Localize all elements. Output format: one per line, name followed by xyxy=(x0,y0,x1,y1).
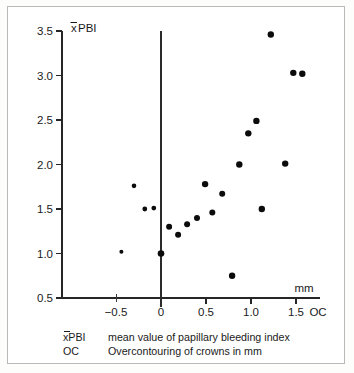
x-tick-label: 0.5 xyxy=(198,306,214,318)
y-tick-label: 1.5 xyxy=(37,203,53,215)
y-tick-label: 0.5 xyxy=(37,292,53,304)
scatter-plot: 3.5 3.0 2.5 2.0 1.5 1.0 0.5 −0.5 0 0.5 1… xyxy=(0,0,354,373)
figure-container: 3.5 3.0 2.5 2.0 1.5 1.0 0.5 −0.5 0 0.5 1… xyxy=(0,0,354,373)
legend-key-oc: OC xyxy=(63,345,109,358)
y-tick-label: 1.0 xyxy=(37,248,53,260)
y-axis-title-x: x xyxy=(71,22,77,34)
x-tick-label: −0.5 xyxy=(105,306,128,318)
x-tick-marks xyxy=(116,294,296,304)
data-point xyxy=(268,31,274,37)
legend-key-pbi-prefix: x xyxy=(63,331,68,343)
legend-key-pbi: xPBI xyxy=(63,331,109,344)
data-point xyxy=(142,207,147,212)
data-point xyxy=(299,71,305,77)
data-point xyxy=(253,118,259,124)
y-tick-labels: 3.5 3.0 2.5 2.0 1.5 1.0 0.5 xyxy=(37,25,53,304)
data-point xyxy=(245,130,251,136)
data-point xyxy=(236,161,242,167)
y-tick-label: 3.5 xyxy=(37,25,53,37)
data-point xyxy=(290,70,296,76)
x-tick-label: 0 xyxy=(158,306,164,318)
x-tick-labels: −0.5 0 0.5 1.0 1.5 xyxy=(105,306,304,318)
legend-desc-pbi: mean value of papillary bleeding index xyxy=(108,331,290,344)
data-point xyxy=(166,224,172,230)
legend-key-pbi-rest: PBI xyxy=(68,331,85,343)
y-tick-label: 2.5 xyxy=(37,114,53,126)
x-axis-title: OC xyxy=(309,306,326,318)
data-point xyxy=(194,215,200,221)
data-point xyxy=(259,206,265,212)
data-point xyxy=(158,250,165,257)
data-point xyxy=(151,206,156,211)
x-axis-unit-label: mm xyxy=(294,282,313,294)
data-point xyxy=(209,210,215,216)
legend-desc-oc: Overcontouring of crowns in mm xyxy=(108,345,262,358)
data-point xyxy=(119,250,123,254)
data-point xyxy=(229,273,235,279)
data-points xyxy=(119,31,305,279)
y-tick-label: 2.0 xyxy=(37,159,53,171)
y-axis-title: PBI xyxy=(78,22,97,34)
data-point xyxy=(219,191,225,197)
data-point xyxy=(175,232,181,238)
y-tick-marks xyxy=(56,31,62,298)
data-point xyxy=(184,221,190,227)
x-tick-label: 1.0 xyxy=(243,306,259,318)
data-point xyxy=(202,181,208,187)
data-point xyxy=(132,184,137,189)
data-point xyxy=(282,160,288,166)
y-tick-label: 3.0 xyxy=(37,70,53,82)
axis-titles: x PBI mm OC xyxy=(71,22,327,318)
x-tick-label: 1.5 xyxy=(288,306,304,318)
